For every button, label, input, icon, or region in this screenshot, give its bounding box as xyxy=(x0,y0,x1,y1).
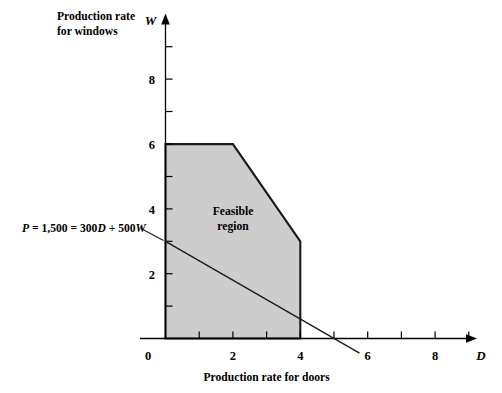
x-axis-symbol-label: D xyxy=(475,348,486,363)
y-axis-symbol-label: W xyxy=(145,13,158,28)
profit-label-w-symbol: W xyxy=(136,222,147,235)
x-tick-label-4: 4 xyxy=(297,349,304,363)
x-axis-arrowhead xyxy=(466,334,477,343)
y-tick-label-6: 6 xyxy=(149,138,155,152)
y-tick-label-8: 8 xyxy=(149,73,155,87)
x-tick-label-2: 2 xyxy=(230,349,236,363)
x-tick-label-8: 8 xyxy=(432,349,438,363)
y-axis-caption-line1: Production rate xyxy=(57,10,135,23)
y-axis-arrowhead xyxy=(161,14,170,25)
profit-line-equation-label: P = 1,500 = 300D + 500W xyxy=(22,222,147,235)
feasible-region-label-line2: region xyxy=(217,220,249,233)
profit-label-body-text: = 1,500 = 300 xyxy=(29,222,97,235)
x-tick-label-0: 0 xyxy=(145,349,151,363)
x-axis-caption: Production rate for doors xyxy=(204,371,331,384)
feasible-region-label-line1: Feasible xyxy=(213,205,254,218)
y-axis-caption-line2: for windows xyxy=(57,25,118,38)
y-tick-label-4: 4 xyxy=(149,203,156,217)
feasible-region-plot: 8 6 4 2 0 2 4 6 8 W D Production rate fo xyxy=(0,0,502,393)
x-tick-label-6: 6 xyxy=(365,349,371,363)
linear-programming-figure: 8 6 4 2 0 2 4 6 8 W D Production rate fo xyxy=(0,0,502,393)
y-tick-label-2: 2 xyxy=(149,268,155,282)
feasible-region-polygon xyxy=(166,144,301,338)
profit-label-mid-text: + 500 xyxy=(106,222,136,235)
